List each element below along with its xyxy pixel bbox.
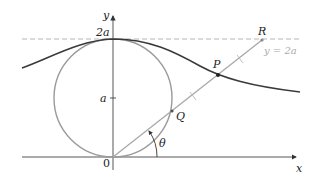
witch-of-agnesi-diagram: y x 2a a 0 θ P Q R y = 2a — [0, 0, 321, 184]
Q-label: Q — [176, 110, 185, 123]
R-label: R — [257, 25, 266, 38]
asymptote-label: y = 2a — [263, 45, 297, 56]
point-P — [216, 73, 220, 77]
two-a-label: 2a — [95, 26, 110, 39]
origin-label: 0 — [103, 157, 110, 170]
P-label: P — [212, 58, 221, 71]
a-label: a — [100, 92, 107, 105]
y-axis-label: y — [102, 9, 110, 22]
ray-OR — [113, 40, 262, 157]
point-R — [260, 38, 263, 41]
point-Q — [170, 109, 173, 112]
x-axis-label: x — [296, 162, 303, 175]
theta-label: θ — [159, 137, 166, 150]
